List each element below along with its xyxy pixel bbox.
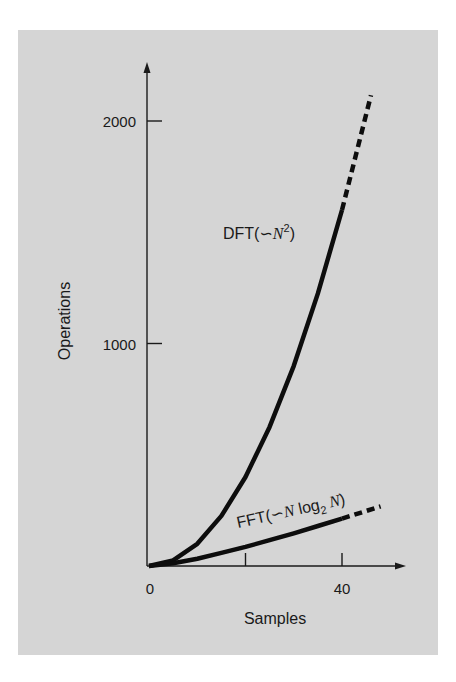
operations-vs-samples-chart: 2000 1000 0 40 Samples Operations DFT(∽N… — [0, 0, 456, 682]
y-tick-label-2000: 2000 — [103, 113, 136, 130]
y-axis-label: Operations — [56, 282, 73, 360]
fft-curve-dashed — [342, 506, 381, 518]
data-series — [149, 95, 381, 566]
x-tick-label-0: 0 — [146, 580, 154, 597]
y-tick-label-1000: 1000 — [103, 336, 136, 353]
dft-curve-dashed — [342, 95, 371, 210]
y-axis-arrow-icon — [144, 62, 151, 73]
x-tick-label-40: 40 — [334, 580, 351, 597]
x-axis-arrow-icon — [395, 563, 406, 570]
fft-series-label: FFT(∽N log2 N) — [235, 490, 348, 534]
x-axis-label: Samples — [244, 610, 306, 627]
dft-series-label: DFT(∽N2) — [223, 222, 295, 242]
